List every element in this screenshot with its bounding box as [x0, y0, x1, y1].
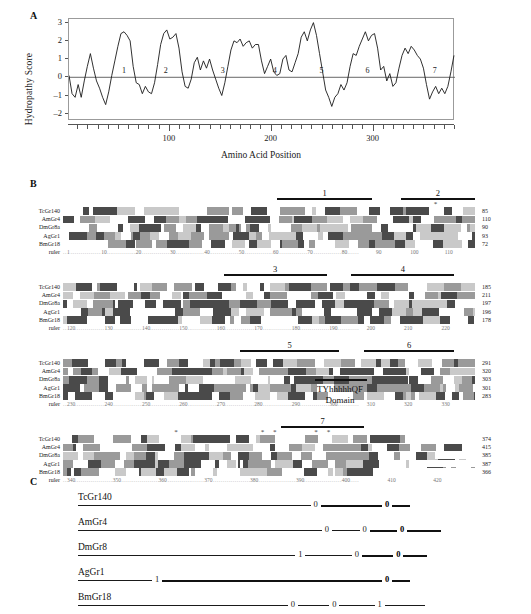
alignment-segment — [416, 452, 427, 460]
alignment-segment — [471, 207, 475, 215]
alignment-segment — [230, 292, 246, 300]
x-tick-label: 200 — [258, 133, 284, 143]
alignment-segment — [261, 216, 270, 224]
alignment-segment — [118, 300, 133, 308]
alignment-segment — [169, 376, 185, 384]
alignment-segment — [63, 392, 68, 400]
alignment-row: AmGr4110 — [0, 215, 531, 223]
alignment-segment — [188, 384, 199, 392]
alignment-segment — [219, 392, 230, 400]
alignment-segment — [369, 207, 380, 215]
alignment-segment — [433, 240, 443, 248]
alignment-segment — [331, 224, 348, 232]
alignment-segment — [63, 368, 68, 376]
y-tick-label: –2 — [46, 108, 62, 118]
alignment-segment — [150, 232, 159, 240]
alignment-segment — [117, 444, 123, 452]
alignment-segment — [184, 452, 197, 460]
alignment-segment — [186, 283, 193, 291]
ruler-tick: 330 — [442, 400, 450, 408]
sequence-name: TcGr140 — [20, 207, 60, 215]
alignment-segment — [434, 216, 448, 224]
alignment-segment — [289, 444, 301, 452]
alignment-segment — [175, 384, 179, 392]
x-tick-minor — [423, 125, 424, 129]
alignment-segment — [312, 460, 328, 468]
alignment-segment — [139, 224, 148, 232]
alignment-segment — [413, 308, 422, 316]
alignment-segment — [464, 283, 475, 291]
alignment-segment — [239, 435, 249, 443]
alignment-row: BmGr18283 — [0, 392, 531, 400]
x-tick-minor — [413, 125, 414, 129]
alignment-segment — [73, 368, 81, 376]
alignment-segment — [239, 224, 242, 232]
alignment-segment — [121, 368, 137, 376]
alignment-segment — [164, 392, 179, 400]
alignment-segment — [413, 216, 421, 224]
alignment-segment — [177, 240, 188, 248]
alignment-row: AgGr1301 — [0, 384, 531, 392]
alignment-segment — [63, 452, 78, 460]
alignment-segment — [393, 216, 409, 224]
tm-bar-7 — [281, 426, 363, 428]
alignment-segment — [400, 316, 417, 324]
alignment-segment — [246, 292, 253, 300]
alignment-segment — [144, 359, 159, 367]
alignment-row: DmGr8a197 — [0, 299, 531, 307]
alignment-segment — [382, 232, 395, 240]
alignment-segment — [181, 435, 191, 443]
alignment-segment — [425, 292, 439, 300]
alignment-segment — [209, 224, 223, 232]
alignment-segment — [132, 444, 147, 452]
intron-phase-marker: 0 — [383, 575, 392, 584]
alignment-sequence-track — [63, 460, 475, 468]
gene-row: BmGr18001 — [0, 592, 531, 614]
ruler-scale: ........................................… — [63, 324, 475, 332]
alignment-segment — [209, 452, 223, 460]
alignment-segment — [211, 240, 225, 248]
alignment-segment — [140, 232, 150, 240]
alignment-segment — [229, 300, 239, 308]
alignment-segment — [149, 308, 167, 316]
y-tick-label: 2 — [46, 35, 62, 45]
alignment-segment — [335, 240, 350, 248]
alignment-segment — [179, 216, 186, 224]
alignment-segment — [192, 207, 207, 215]
alignment-segment — [76, 444, 83, 452]
alignment-segment — [193, 435, 209, 443]
alignment-segment — [341, 316, 358, 324]
alignment-segment — [94, 435, 105, 443]
alignment-segment — [117, 207, 134, 215]
intron-phase-marker: 0 — [311, 500, 320, 509]
sequence-name: TcGr140 — [20, 359, 60, 367]
panel-a-letter: A — [30, 10, 37, 21]
plot-frame: 1234567 — [68, 18, 454, 120]
tm-label-7: 7 — [430, 66, 440, 75]
alignment-segment — [165, 316, 178, 324]
alignment-segment — [208, 300, 218, 308]
alignment-segment — [113, 435, 131, 443]
alignment-segment — [249, 452, 262, 460]
alignment-segment — [73, 460, 82, 468]
alignment-segment — [122, 292, 124, 300]
alignment-segment — [113, 300, 115, 308]
alignment-segment — [141, 292, 150, 300]
ruler-tick: 50 — [239, 248, 245, 256]
alignment-segment — [87, 376, 99, 384]
alignment-segment — [145, 216, 155, 224]
sequence-name: DmGr8a — [20, 375, 60, 383]
alignment-segment — [429, 207, 444, 215]
alignment-segment — [419, 392, 436, 400]
ruler-tick: 210 — [404, 324, 412, 332]
alignment-segment — [113, 392, 123, 400]
alignment-segment — [88, 308, 102, 316]
alignment-segment — [167, 240, 178, 248]
alignment-segment — [395, 240, 405, 248]
ruler-tick: 60 — [273, 248, 279, 256]
alignment-segment — [197, 216, 213, 224]
alignment-segment — [257, 240, 271, 248]
intron-phase-marker: 1 — [375, 600, 384, 609]
alignment-segment — [349, 444, 361, 452]
alignment-segment — [173, 300, 181, 308]
